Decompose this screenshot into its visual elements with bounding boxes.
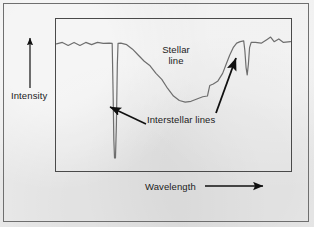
interstellar-pointer-left <box>110 107 146 124</box>
wavelength-axis-label: Wavelength <box>145 181 196 192</box>
stellar-line-label-row2: line <box>168 55 183 66</box>
figure-container: Stellar line Interstellar lines Intensit… <box>0 0 314 227</box>
interstellar-lines-label: Interstellar lines <box>147 114 215 125</box>
stellar-line-label: Stellar line <box>152 44 200 66</box>
stellar-line-label-row1: Stellar <box>162 44 190 55</box>
intensity-axis-label: Intensity <box>11 90 47 101</box>
